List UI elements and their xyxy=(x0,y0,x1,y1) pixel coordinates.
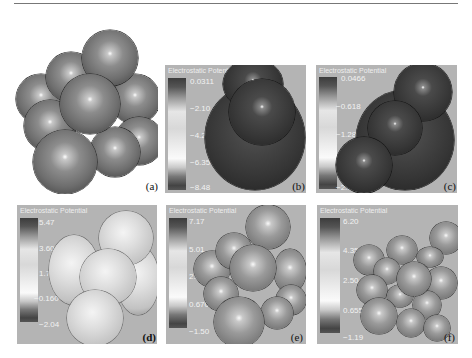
colorbar-tick: −1.19 xyxy=(343,333,363,342)
atom-sphere xyxy=(397,262,431,296)
surface-lobe xyxy=(261,297,293,329)
surface-lobe xyxy=(230,245,276,291)
panel-a: (a) xyxy=(10,12,158,194)
colorbar-tick: −1.50 xyxy=(189,327,209,336)
atom-sphere xyxy=(90,127,140,177)
colorbar-tick: −6.35 xyxy=(190,158,210,167)
colorbar-tick: −0.618 xyxy=(336,102,361,111)
panel-label: (b) xyxy=(292,180,305,192)
colorbar-title: Electrostatic Potential xyxy=(320,207,387,214)
surface-lobe xyxy=(229,79,295,145)
colorbar-title: Electrostatic Potential xyxy=(319,67,386,74)
surface-lobe xyxy=(214,297,264,344)
panel-e: Electrostatic Potential 7.17 5.01 2.84 0… xyxy=(166,205,306,344)
colorbar-title: Electrostatic Potential xyxy=(20,207,87,214)
colorbar-tick: 0.0311 xyxy=(190,77,214,86)
panel-f: Electrostatic Potential 6.20 4.35 2.50 0… xyxy=(317,205,458,344)
surface-lobe xyxy=(336,137,392,193)
colorbar xyxy=(168,78,186,190)
atom-sphere xyxy=(397,309,425,337)
panel-label: (e) xyxy=(291,331,303,343)
colorbar xyxy=(320,218,340,333)
atom-sphere xyxy=(361,298,397,334)
panel-label: (f) xyxy=(444,331,455,343)
atom-sphere xyxy=(60,74,120,134)
colorbar-tick: 5.47 xyxy=(39,218,55,227)
panel-label: (d) xyxy=(143,331,156,343)
colorbar-title: Electrostatic Potential xyxy=(169,207,236,214)
colorbar-tick: −2.04 xyxy=(39,320,59,329)
colorbar xyxy=(319,77,337,189)
colorbar-tick: −2.10 xyxy=(190,104,210,113)
colorbar-tick: 7.17 xyxy=(189,217,205,226)
panel-label: (c) xyxy=(444,180,456,192)
panel-label: (a) xyxy=(146,180,158,192)
colorbar-tick: −8.48 xyxy=(190,183,210,192)
colorbar-tick: 2.50 xyxy=(343,276,359,285)
surface-lobe xyxy=(67,290,123,344)
colorbar-tick: −0.160 xyxy=(34,294,59,303)
colorbar-tick: 0.655 xyxy=(343,306,363,315)
panel-d: Electrostatic Potential 5.47 3.60 1.72 −… xyxy=(17,205,157,344)
colorbar xyxy=(169,218,187,328)
colorbar-tick: 0.0466 xyxy=(341,74,365,83)
colorbar-tick: 6.20 xyxy=(343,217,359,226)
surface-lobe xyxy=(246,205,290,249)
panel-b: Electrostatic Potential 0.0311 −2.10 −4.… xyxy=(165,65,306,193)
atom-sphere xyxy=(33,130,97,194)
colorbar-tick: −1.28 xyxy=(336,130,356,139)
panel-c: Electrostatic Potential 0.0466 −0.618 −1… xyxy=(316,65,457,193)
colorbar xyxy=(20,218,38,322)
top-rule xyxy=(14,3,458,4)
